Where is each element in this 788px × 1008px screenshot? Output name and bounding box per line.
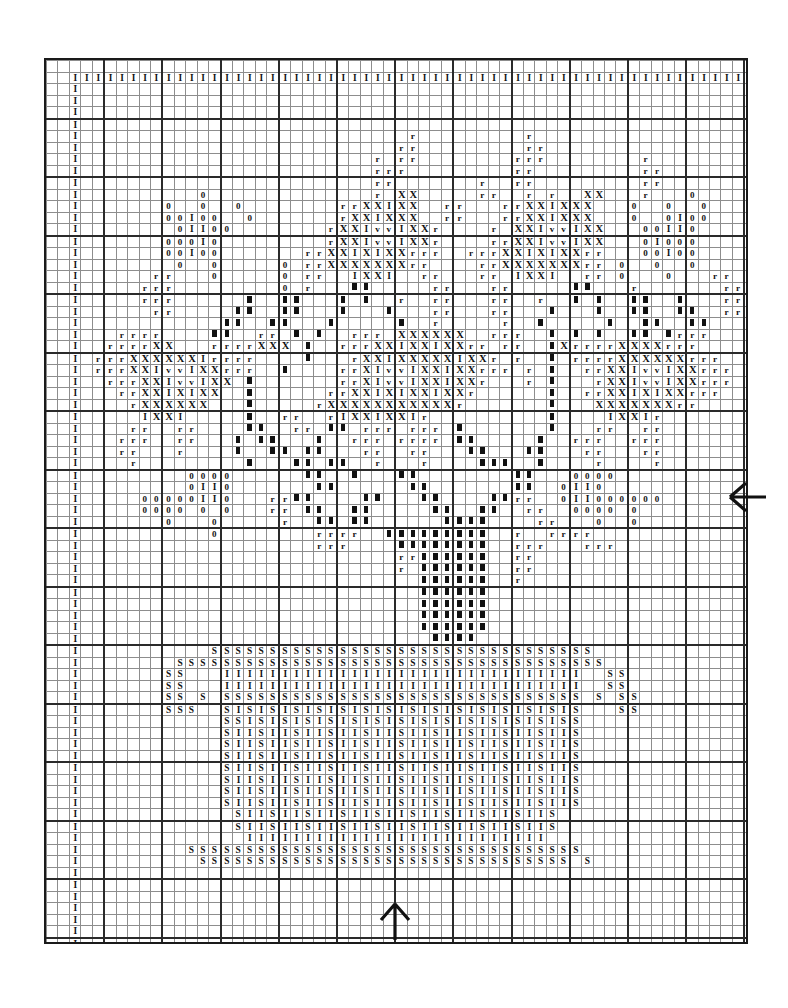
grid-cell-filled[interactable]: r (419, 458, 430, 470)
grid-cell-filled[interactable] (419, 493, 430, 505)
grid-cell-empty[interactable] (314, 879, 325, 891)
grid-cell-empty[interactable] (197, 329, 208, 341)
grid-cell-empty[interactable] (674, 95, 686, 107)
grid-cell-filled[interactable]: r (500, 282, 512, 294)
grid-cell-empty[interactable] (674, 657, 686, 669)
grid-cell-empty[interactable] (139, 259, 150, 271)
grid-cell-filled[interactable]: 0 (593, 493, 604, 505)
grid-cell-empty[interactable] (616, 727, 628, 739)
grid-cell-empty[interactable] (150, 599, 162, 611)
grid-cell-empty[interactable] (139, 61, 150, 73)
grid-cell-empty[interactable] (174, 938, 185, 943)
grid-cell-filled[interactable]: I (419, 833, 430, 845)
grid-cell-filled[interactable]: r (512, 575, 524, 587)
grid-cell-filled[interactable]: I (69, 142, 80, 154)
grid-cell-filled[interactable] (465, 633, 476, 645)
grid-cell-filled[interactable]: r (349, 435, 360, 447)
grid-cell-empty[interactable] (162, 95, 174, 107)
grid-cell-filled[interactable]: r (500, 329, 512, 341)
grid-cell-filled[interactable]: X (337, 399, 349, 411)
grid-cell-filled[interactable]: S (291, 762, 302, 774)
grid-cell-empty[interactable] (558, 610, 570, 622)
grid-cell-empty[interactable] (744, 119, 746, 131)
grid-cell-filled[interactable]: X (430, 399, 441, 411)
grid-cell-empty[interactable] (325, 189, 337, 201)
grid-cell-empty[interactable] (104, 750, 116, 762)
grid-cell-empty[interactable] (582, 633, 593, 645)
grid-cell-empty[interactable] (209, 774, 221, 786)
grid-cell-empty[interactable] (221, 528, 233, 540)
grid-cell-empty[interactable] (453, 119, 465, 131)
grid-cell-filled[interactable] (628, 294, 640, 306)
grid-cell-empty[interactable] (116, 774, 127, 786)
grid-cell-filled[interactable] (291, 294, 302, 306)
grid-cell-empty[interactable] (721, 493, 732, 505)
grid-cell-empty[interactable] (267, 306, 279, 318)
grid-cell-filled[interactable]: S (395, 657, 407, 669)
grid-cell-filled[interactable]: I (465, 669, 476, 681)
grid-cell-empty[interactable] (58, 341, 69, 353)
grid-cell-filled[interactable]: S (593, 657, 604, 669)
grid-cell-filled[interactable]: X (616, 411, 628, 423)
grid-cell-empty[interactable] (47, 107, 58, 119)
grid-cell-empty[interactable] (47, 938, 58, 943)
grid-cell-filled[interactable]: X (535, 248, 546, 260)
grid-cell-filled[interactable]: I (279, 739, 291, 751)
grid-cell-empty[interactable] (150, 891, 162, 903)
grid-cell-filled[interactable]: r (430, 318, 441, 330)
grid-cell-empty[interactable] (430, 177, 441, 189)
grid-cell-filled[interactable]: I (139, 72, 150, 84)
grid-cell-filled[interactable]: S (221, 856, 233, 868)
grid-cell-empty[interactable] (709, 633, 720, 645)
grid-cell-empty[interactable] (512, 84, 524, 96)
grid-cell-filled[interactable]: r (732, 294, 744, 306)
grid-cell-filled[interactable]: S (488, 645, 499, 657)
grid-cell-filled[interactable]: S (255, 750, 266, 762)
grid-cell-empty[interactable] (325, 435, 337, 447)
grid-cell-empty[interactable] (150, 259, 162, 271)
grid-cell-filled[interactable]: I (337, 680, 349, 692)
grid-cell-empty[interactable] (139, 680, 150, 692)
grid-cell-filled[interactable]: X (419, 341, 430, 353)
grid-cell-empty[interactable] (197, 563, 208, 575)
grid-cell-empty[interactable] (128, 587, 139, 599)
grid-cell-empty[interactable] (81, 879, 92, 891)
grid-cell-filled[interactable]: r (686, 353, 698, 365)
grid-cell-filled[interactable]: X (523, 224, 534, 236)
grid-cell-empty[interactable] (582, 107, 593, 119)
grid-cell-empty[interactable] (360, 154, 371, 166)
grid-cell-empty[interactable] (732, 353, 744, 365)
grid-cell-empty[interactable] (244, 552, 255, 564)
grid-cell-empty[interactable] (744, 435, 746, 447)
grid-cell-filled[interactable]: r (349, 341, 360, 353)
grid-cell-empty[interactable] (197, 716, 208, 728)
grid-cell-empty[interactable] (81, 704, 92, 716)
grid-cell-empty[interactable] (197, 282, 208, 294)
grid-cell-empty[interactable] (407, 563, 418, 575)
grid-cell-filled[interactable]: S (267, 692, 279, 704)
grid-cell-empty[interactable] (721, 575, 732, 587)
grid-cell-empty[interactable] (360, 306, 371, 318)
grid-cell-filled[interactable] (233, 435, 244, 447)
grid-cell-filled[interactable]: I (360, 833, 371, 845)
grid-cell-empty[interactable] (372, 505, 383, 517)
grid-cell-empty[interactable] (255, 154, 266, 166)
grid-cell-empty[interactable] (709, 119, 720, 131)
grid-cell-empty[interactable] (58, 786, 69, 798)
grid-cell-empty[interactable] (302, 84, 313, 96)
grid-cell-empty[interactable] (546, 575, 557, 587)
grid-cell-empty[interactable] (477, 903, 488, 915)
grid-cell-filled[interactable]: r (453, 212, 465, 224)
grid-cell-empty[interactable] (663, 84, 674, 96)
grid-cell-empty[interactable] (744, 493, 746, 505)
grid-cell-empty[interactable] (744, 856, 746, 868)
grid-cell-empty[interactable] (221, 61, 233, 73)
grid-cell-filled[interactable] (453, 552, 465, 564)
grid-cell-filled[interactable]: r (512, 201, 524, 213)
grid-cell-empty[interactable] (47, 329, 58, 341)
grid-cell-filled[interactable]: I (383, 353, 395, 365)
grid-cell-filled[interactable]: I (558, 669, 570, 681)
grid-cell-empty[interactable] (92, 458, 104, 470)
grid-cell-empty[interactable] (605, 131, 616, 143)
grid-cell-filled[interactable]: 0 (663, 212, 674, 224)
